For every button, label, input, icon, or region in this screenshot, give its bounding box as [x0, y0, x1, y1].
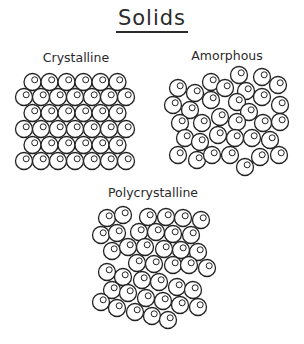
atom: [212, 109, 229, 126]
atom: [271, 147, 288, 164]
atom: [229, 114, 246, 131]
atom: [115, 207, 132, 224]
atom: [99, 210, 116, 227]
atom: [120, 285, 137, 302]
atom: [181, 257, 198, 274]
atom: [217, 80, 234, 97]
atom: [156, 241, 173, 258]
atoms-canvas: [0, 0, 304, 344]
atom: [84, 89, 101, 106]
atom: [101, 121, 118, 138]
atom: [109, 300, 126, 317]
atom: [237, 159, 254, 176]
atom: [109, 225, 126, 242]
atom: [75, 137, 92, 154]
atom: [127, 304, 144, 321]
atom: [204, 147, 221, 164]
atom: [50, 89, 67, 106]
atom: [148, 224, 165, 241]
atom: [255, 115, 272, 132]
atom: [158, 209, 175, 226]
atom: [146, 256, 163, 273]
atom: [50, 121, 67, 138]
atom: [137, 239, 154, 256]
atom: [84, 121, 101, 138]
atom: [222, 147, 239, 164]
atom: [41, 74, 58, 91]
atom: [24, 105, 41, 122]
atom: [92, 105, 109, 122]
atom: [84, 153, 101, 170]
solids-diagram: Solids Crystalline Amorphous Polycrystal…: [0, 0, 304, 344]
atom: [75, 105, 92, 122]
atom: [190, 299, 207, 316]
atom: [16, 89, 33, 106]
atom: [129, 255, 146, 272]
atom: [170, 80, 187, 97]
atom: [92, 137, 109, 154]
atom: [187, 85, 204, 102]
atom: [165, 257, 182, 274]
atom: [33, 89, 50, 106]
atom: [58, 105, 75, 122]
atom: [262, 132, 279, 149]
polycrystalline-grains: [93, 207, 216, 329]
atom: [93, 294, 110, 311]
atom: [169, 279, 186, 296]
atom: [203, 92, 220, 109]
atom: [118, 121, 135, 138]
atom: [118, 153, 135, 170]
atom: [173, 242, 190, 259]
atom: [101, 89, 118, 106]
atom: [41, 105, 58, 122]
atom: [92, 74, 109, 91]
crystalline-lattice: [16, 74, 135, 170]
atom: [109, 74, 126, 91]
atom: [41, 137, 58, 154]
atom: [93, 227, 110, 244]
atom: [155, 293, 172, 310]
atom: [50, 153, 67, 170]
amorphous-cluster: [165, 67, 289, 176]
atom: [172, 297, 189, 314]
atom: [170, 147, 187, 164]
atom: [270, 77, 287, 94]
atom: [67, 153, 84, 170]
atom: [254, 69, 271, 86]
atom: [109, 105, 126, 122]
atom: [33, 153, 50, 170]
atom: [134, 272, 151, 289]
atom: [33, 121, 50, 138]
atom: [24, 137, 41, 154]
atom: [109, 137, 126, 154]
atom: [58, 74, 75, 91]
atom: [16, 121, 33, 138]
atom: [138, 290, 155, 307]
atom: [194, 115, 211, 132]
atom: [210, 127, 227, 144]
atom: [183, 227, 200, 244]
atom: [175, 210, 192, 227]
atom: [104, 243, 121, 260]
atom: [199, 260, 216, 277]
atom: [165, 226, 182, 243]
atom: [118, 89, 135, 106]
atom: [140, 209, 157, 226]
atom: [185, 282, 202, 299]
atom: [231, 67, 248, 84]
atom: [192, 134, 209, 151]
atom: [272, 97, 289, 114]
atom: [67, 121, 84, 138]
atom: [120, 239, 137, 256]
atom: [75, 74, 92, 91]
atom: [58, 137, 75, 154]
atom: [254, 89, 271, 106]
atom: [99, 264, 116, 281]
atom: [193, 212, 210, 229]
atom: [252, 149, 269, 166]
atom: [227, 130, 244, 147]
atom: [272, 114, 289, 131]
atom: [244, 130, 261, 147]
atom: [24, 74, 41, 91]
atom: [144, 308, 161, 325]
